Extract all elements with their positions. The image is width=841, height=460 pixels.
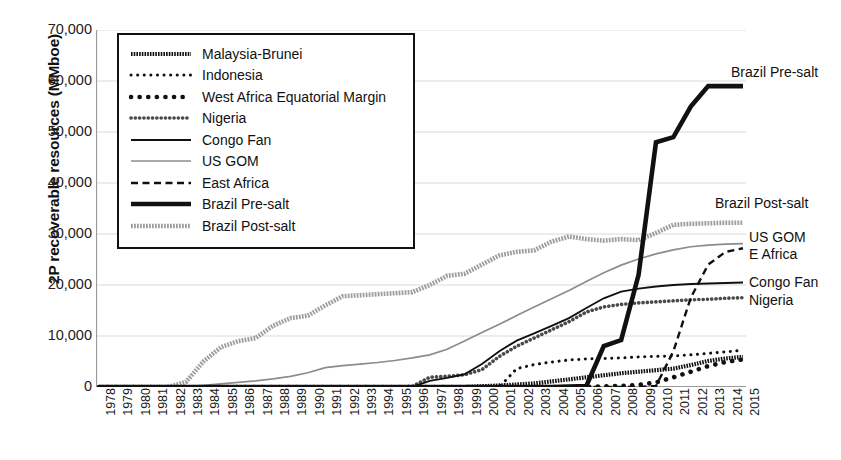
legend-item-label: Indonesia — [202, 68, 263, 82]
series-annotation: US GOM — [749, 229, 806, 245]
series-line-east-africa — [99, 248, 743, 387]
x-tick-label: 1981 — [156, 388, 170, 448]
legend-item[interactable]: Malaysia-Brunei — [129, 43, 407, 65]
y-tick-label: 50,000 — [6, 124, 92, 139]
x-tick-label: 1992 — [348, 388, 362, 448]
x-tick-label: 1979 — [121, 388, 135, 448]
legend-item[interactable]: Brazil Post-salt — [129, 215, 407, 237]
x-tick-label: 1984 — [208, 388, 222, 448]
x-tick-label: 1978 — [104, 388, 118, 448]
x-tick-label: 2007 — [609, 388, 623, 448]
legend-item[interactable]: East Africa — [129, 172, 407, 194]
x-tick-label: 1982 — [174, 388, 188, 448]
legend-swatch-icon — [129, 132, 193, 148]
x-tick-label: 1986 — [243, 388, 257, 448]
legend-item-label: West Africa Equatorial Margin — [202, 90, 386, 104]
x-tick-label: 2001 — [504, 388, 518, 448]
x-tick-label: 1985 — [226, 388, 240, 448]
y-tick-label: 70,000 — [6, 22, 92, 37]
x-axis-tick-labels: 1978197919801981198219831984198519861987… — [96, 390, 746, 460]
legend-item-label: East Africa — [202, 176, 269, 190]
x-tick-label: 2013 — [713, 388, 727, 448]
x-tick-label: 1995 — [400, 388, 414, 448]
x-tick-label: 2014 — [731, 388, 745, 448]
x-tick-label: 2005 — [574, 388, 588, 448]
series-annotation: Congo Fan — [749, 274, 818, 290]
x-tick-label: 2010 — [661, 388, 675, 448]
x-tick-label: 1993 — [365, 388, 379, 448]
y-axis-tick-labels: 010,00020,00030,00040,00050,00060,00070,… — [0, 0, 92, 460]
x-tick-label: 2012 — [696, 388, 710, 448]
legend-item[interactable]: Congo Fan — [129, 129, 407, 151]
x-tick-label: 2000 — [487, 388, 501, 448]
x-tick-label: 2008 — [626, 388, 640, 448]
x-tick-label: 1988 — [278, 388, 292, 448]
legend-swatch-icon — [129, 175, 193, 191]
legend-item-label: Congo Fan — [202, 133, 271, 147]
legend-swatch-icon — [129, 67, 193, 83]
x-tick-label: 2003 — [539, 388, 553, 448]
x-tick-label: 1997 — [435, 388, 449, 448]
legend-item-label: Nigeria — [202, 111, 246, 125]
legend-swatch-icon — [129, 89, 193, 105]
x-tick-label: 1987 — [261, 388, 275, 448]
y-tick-label: 40,000 — [6, 175, 92, 190]
x-tick-label: 2006 — [591, 388, 605, 448]
y-tick-label: 20,000 — [6, 277, 92, 292]
legend-item[interactable]: US GOM — [129, 151, 407, 173]
x-tick-label: 2004 — [557, 388, 571, 448]
y-tick-label: 10,000 — [6, 328, 92, 343]
x-tick-label: 1999 — [470, 388, 484, 448]
legend-swatch-icon — [129, 196, 193, 212]
legend-item-label: Malaysia-Brunei — [202, 47, 302, 61]
legend-item-label: US GOM — [202, 154, 259, 168]
legend-item-label: Brazil Pre-salt — [202, 197, 289, 211]
legend-item[interactable]: Nigeria — [129, 108, 407, 130]
series-annotation: Brazil Pre-salt — [731, 64, 818, 80]
x-tick-label: 1994 — [382, 388, 396, 448]
legend-item[interactable]: Brazil Pre-salt — [129, 194, 407, 216]
legend-box: Malaysia-BruneiIndonesiaWest Africa Equa… — [117, 33, 415, 249]
x-tick-label: 1980 — [139, 388, 153, 448]
x-tick-label: 2015 — [748, 388, 762, 448]
series-annotation: Nigeria — [749, 292, 793, 308]
y-tick-label: 0 — [6, 379, 92, 394]
legend-swatch-icon — [129, 218, 193, 234]
x-tick-label: 1998 — [452, 388, 466, 448]
x-tick-label: 1996 — [417, 388, 431, 448]
y-tick-label: 30,000 — [6, 226, 92, 241]
legend-item[interactable]: Indonesia — [129, 65, 407, 87]
x-tick-label: 2011 — [678, 388, 692, 448]
series-annotation: Brazil Post-salt — [715, 195, 808, 211]
x-tick-label: 1991 — [330, 388, 344, 448]
y-tick-label: 60,000 — [6, 73, 92, 88]
x-tick-label: 1983 — [191, 388, 205, 448]
series-line-us-gom — [99, 244, 743, 387]
x-tick-label: 1989 — [295, 388, 309, 448]
x-tick-label: 2009 — [644, 388, 658, 448]
legend-swatch-icon — [129, 153, 193, 169]
series-annotation: E Africa — [749, 246, 797, 262]
x-tick-label: 2002 — [522, 388, 536, 448]
x-tick-label: 1990 — [313, 388, 327, 448]
legend-item[interactable]: West Africa Equatorial Margin — [129, 86, 407, 108]
legend-swatch-icon — [129, 46, 193, 62]
legend-swatch-icon — [129, 110, 193, 126]
legend-item-label: Brazil Post-salt — [202, 219, 295, 233]
chart-root: 2P recoverable resources (MMboe) 010,000… — [0, 0, 841, 460]
